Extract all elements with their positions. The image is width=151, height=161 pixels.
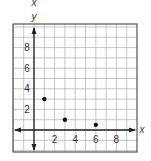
x-arrow-right-icon [129,128,136,133]
top-stray-label: x [31,0,38,8]
x-axis-label: x [139,124,146,135]
y-arrow-down-icon [32,144,37,151]
x-tick-label: 4 [72,134,78,145]
y-tick-label: 4 [24,83,30,94]
y-tick-label: 2 [24,104,30,115]
data-point [94,123,98,127]
y-tick-label: 6 [24,63,30,74]
grid-lines [13,24,137,152]
y-tick-label: 8 [24,42,30,53]
y-axis-label: y [31,11,38,22]
x-tick-label: 8 [114,134,120,145]
scatter-chart: x 24682468 y x [0,0,151,161]
x-tick-label: 2 [52,134,58,145]
data-points [42,97,98,127]
data-point [42,97,46,101]
x-tick-label: 6 [93,134,99,145]
y-arrow-up-icon [32,27,37,34]
x-arrow-left-icon [14,128,21,133]
data-point [63,118,67,122]
